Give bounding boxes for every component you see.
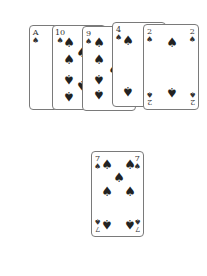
spade-icon: ♠ (124, 185, 136, 198)
card-corner: 7 ♠ (94, 155, 101, 171)
spade-icon: ♠ (85, 38, 92, 46)
card-corner: 2 ♠ (146, 90, 153, 106)
card-corner: 2 ♠ (189, 90, 196, 106)
spade-icon: ♠ (63, 36, 75, 49)
spade-icon: ♠ (189, 36, 196, 44)
spade-icon: ♠ (93, 73, 105, 86)
spade-icon: ♠ (115, 34, 122, 42)
card-corner: 4 ♠ (115, 26, 122, 42)
spade-icon: ♠ (146, 90, 153, 98)
card-corner: 2 ♠ (146, 28, 153, 44)
spade-icon: ♠ (93, 53, 105, 66)
spade-icon: ♠ (189, 90, 196, 98)
spade-icon: ♠ (101, 218, 113, 231)
card-rank: 7 (135, 225, 140, 233)
card-corner: 2 ♠ (189, 28, 196, 44)
spade-icon: ♠ (122, 85, 134, 98)
spade-icon: ♠ (94, 163, 101, 171)
spade-icon: ♠ (94, 217, 101, 225)
card-corner: 7 ♠ (134, 217, 141, 233)
spade-icon: ♠ (122, 34, 134, 47)
spade-icon: ♠ (101, 158, 113, 171)
spade-icon: ♠ (63, 73, 75, 86)
spade-icon: ♠ (134, 217, 141, 225)
spade-icon: ♠ (63, 53, 75, 66)
spade-icon: ♠ (166, 36, 178, 49)
spade-icon: ♠ (124, 158, 136, 171)
spade-icon: ♠ (32, 37, 39, 45)
card-rank: 2 (147, 98, 152, 106)
spade-icon: ♠ (101, 185, 113, 198)
spade-icon: ♠ (113, 171, 125, 184)
card-two-of-spades[interactable]: 2 ♠ 2 ♠ ♠ ♠ 2 ♠ 2 ♠ (143, 24, 199, 110)
card-corner: 9 ♠ (85, 30, 92, 46)
card-corner: A ♠ (32, 29, 39, 45)
card-corner: 7 ♠ (94, 217, 101, 233)
spade-icon: ♠ (93, 36, 105, 49)
card-rank: 2 (190, 98, 195, 106)
card-seven-of-spades[interactable]: 7 ♠ 7 ♠ ♠ ♠ ♠ ♠ ♠ ♠ ♠ 7 ♠ 7 ♠ (91, 151, 144, 237)
spade-icon: ♠ (63, 90, 75, 103)
spade-icon: ♠ (166, 86, 178, 99)
spade-icon: ♠ (93, 88, 105, 101)
spade-icon: ♠ (146, 36, 153, 44)
card-rank: 7 (95, 225, 100, 233)
